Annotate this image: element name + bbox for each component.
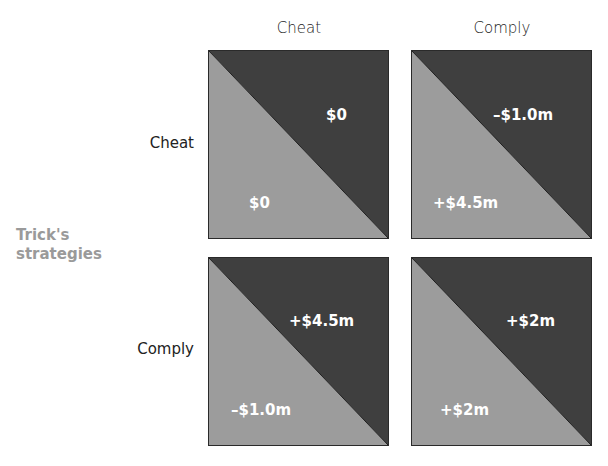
row-axis-title-line1: Trick's: [16, 226, 102, 245]
diagonal-split-graphic: [209, 51, 388, 238]
payoff-cell-comply-cheat: +$4.5m –$1.0m: [208, 257, 389, 446]
payoff-cell-cheat-comply: –$1.0m +$4.5m: [411, 50, 592, 239]
payoff-lower: –$1.0m: [231, 401, 291, 419]
payoff-lower: $0: [249, 194, 270, 212]
payoff-upper: –$1.0m: [493, 106, 553, 124]
row-axis-title-line2: strategies: [16, 245, 102, 264]
row-label-cheat: Cheat: [84, 134, 194, 152]
column-label-cheat: Cheat: [208, 19, 390, 37]
row-label-comply: Comply: [84, 340, 194, 358]
diagonal-split-graphic: [412, 258, 591, 445]
payoff-upper: $0: [326, 106, 347, 124]
row-axis-title: Trick's strategies: [16, 226, 102, 264]
payoff-lower: +$4.5m: [433, 194, 498, 212]
payoff-cell-cheat-cheat: $0 $0: [208, 50, 389, 239]
payoff-upper: +$2m: [506, 312, 555, 330]
payoff-upper: +$4.5m: [289, 312, 354, 330]
payoff-lower: +$2m: [440, 401, 489, 419]
payoff-cell-comply-comply: +$2m +$2m: [411, 257, 592, 446]
column-label-comply: Comply: [411, 19, 593, 37]
